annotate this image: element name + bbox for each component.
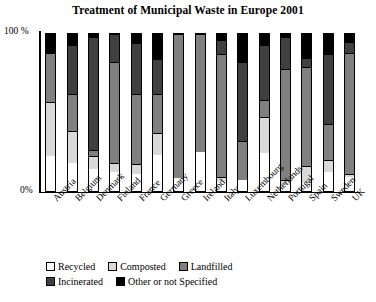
bar-segment-other-or-not-specified bbox=[260, 34, 269, 45]
bar-segment-other-or-not-specified bbox=[46, 34, 55, 53]
bar-segment-landfilled bbox=[324, 124, 333, 160]
bar-belgium[interactable] bbox=[67, 33, 78, 192]
bar-segment-landfilled bbox=[68, 94, 77, 132]
bar-segment-other-or-not-specified bbox=[132, 34, 141, 43]
legend-label-recycled: Recycled bbox=[58, 261, 95, 272]
legend-row-1: Recycled Composted Landfilled bbox=[46, 259, 336, 274]
legend-item-recycled: Recycled bbox=[46, 261, 95, 272]
bar-denmark[interactable] bbox=[88, 33, 99, 192]
bar-segment-composted bbox=[68, 131, 77, 162]
legend-label-other: Other or not Specified bbox=[128, 276, 217, 287]
bar-segment-composted bbox=[260, 117, 269, 153]
legend-swatch-incinerated bbox=[46, 277, 55, 286]
bar-segment-incinerated bbox=[302, 58, 311, 67]
bar-segment-other-or-not-specified bbox=[302, 34, 311, 58]
bar-segment-landfilled bbox=[46, 53, 55, 102]
bar-segment-incinerated bbox=[132, 43, 141, 93]
bar-segment-other-or-not-specified bbox=[68, 34, 77, 45]
bar-segment-other-or-not-specified bbox=[345, 34, 354, 42]
legend-label-landfilled: Landfilled bbox=[191, 261, 233, 272]
bar-finland[interactable] bbox=[109, 33, 120, 192]
bar-france[interactable] bbox=[131, 33, 142, 192]
legend-item-incinerated: Incinerated bbox=[46, 276, 103, 287]
bar-germany[interactable] bbox=[152, 33, 163, 192]
chart-container: Treatment of Municipal Waste in Europe 2… bbox=[0, 0, 376, 302]
bar-segment-composted bbox=[153, 133, 162, 155]
bar-austria[interactable] bbox=[45, 33, 56, 192]
bar-segment-landfilled bbox=[110, 62, 119, 162]
bar-segment-landfilled bbox=[132, 94, 141, 165]
bar-segment-incinerated bbox=[68, 45, 77, 94]
bar-italy[interactable] bbox=[216, 33, 227, 192]
bar-segment-incinerated bbox=[110, 34, 119, 62]
legend-swatch-landfilled bbox=[179, 262, 188, 271]
legend-label-incinerated: Incinerated bbox=[58, 276, 103, 287]
bar-segment-other-or-not-specified bbox=[238, 34, 247, 62]
bar-segment-landfilled bbox=[196, 34, 205, 152]
bar-greece[interactable] bbox=[173, 33, 184, 192]
bar-uk[interactable] bbox=[344, 33, 355, 192]
bar-segment-incinerated bbox=[324, 54, 333, 123]
bar-segment-composted bbox=[89, 156, 98, 169]
bar-segment-incinerated bbox=[281, 37, 290, 68]
bar-segment-landfilled bbox=[345, 53, 354, 174]
bar-segment-composted bbox=[132, 164, 141, 173]
legend-item-composted: Composted bbox=[108, 261, 166, 272]
bar-segment-landfilled bbox=[217, 54, 226, 176]
bar-segment-landfilled bbox=[260, 100, 269, 117]
bar-netherlands[interactable] bbox=[259, 33, 270, 192]
bar-segment-incinerated bbox=[238, 62, 247, 141]
bar-segment-incinerated bbox=[345, 42, 354, 53]
y-axis-tick-top: 100 % bbox=[4, 26, 29, 36]
bar-segment-landfilled bbox=[174, 34, 183, 178]
bar-segment-landfilled bbox=[153, 94, 162, 133]
chart-title: Treatment of Municipal Waste in Europe 2… bbox=[0, 4, 376, 16]
bar-segment-incinerated bbox=[89, 37, 98, 150]
bar-segment-recycled bbox=[46, 156, 55, 191]
bar-sweden[interactable] bbox=[323, 33, 334, 192]
bar-segment-landfilled bbox=[302, 67, 311, 166]
bar-segment-landfilled bbox=[281, 69, 290, 180]
plot-area bbox=[40, 33, 360, 192]
bar-luxembourg[interactable] bbox=[237, 33, 248, 192]
bar-ireland[interactable] bbox=[195, 33, 206, 192]
legend-item-other: Other or not Specified bbox=[116, 276, 217, 287]
legend-swatch-recycled bbox=[46, 262, 55, 271]
bar-segment-incinerated bbox=[153, 59, 162, 94]
legend-label-composted: Composted bbox=[120, 261, 166, 272]
y-axis-tick-bottom: 0% bbox=[20, 185, 33, 195]
legend-swatch-composted bbox=[108, 262, 117, 271]
bar-segment-other-or-not-specified bbox=[324, 34, 333, 54]
bar-segment-other-or-not-specified bbox=[153, 34, 162, 59]
bar-segment-composted bbox=[46, 102, 55, 157]
bar-segment-incinerated bbox=[260, 45, 269, 100]
bar-segment-landfilled bbox=[238, 141, 247, 180]
chart-legend: Recycled Composted Landfilled Incinerate… bbox=[46, 259, 336, 289]
legend-row-2: Incinerated Other or not Specified bbox=[46, 274, 336, 289]
bar-segment-incinerated bbox=[217, 40, 226, 54]
bar-segment-composted bbox=[324, 160, 333, 173]
legend-swatch-other bbox=[116, 277, 125, 286]
legend-item-landfilled: Landfilled bbox=[179, 261, 233, 272]
